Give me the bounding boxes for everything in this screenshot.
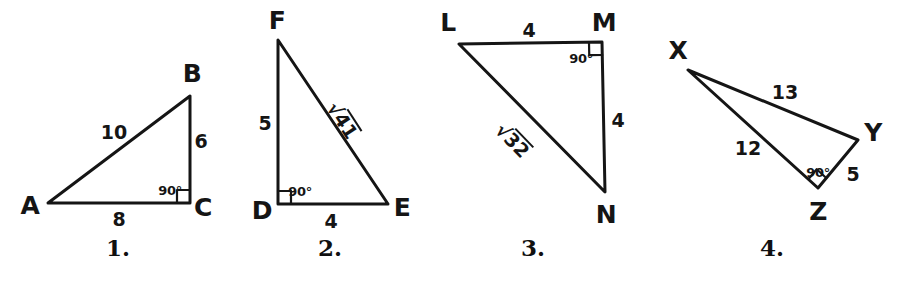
side-length-label-fd: 5 bbox=[258, 114, 271, 133]
vertex-label-m: M bbox=[592, 10, 616, 35]
worksheet-figures-panel: ABC106890°1.FDE54√4190°2.LMN44√3290°3.XY… bbox=[0, 0, 904, 281]
vertex-label-z: Z bbox=[809, 199, 827, 224]
angle-measure-label-z: 90° bbox=[806, 166, 830, 179]
side-length-label-xz: 12 bbox=[735, 139, 761, 158]
figure-caption-4: 4. bbox=[760, 236, 784, 259]
vertex-label-f: F bbox=[269, 8, 286, 33]
figure-caption-3: 3. bbox=[521, 236, 545, 259]
side-length-label-zy: 5 bbox=[846, 165, 859, 184]
side-length-label-lm: 4 bbox=[522, 21, 535, 40]
side-length-label-ln: √32 bbox=[492, 119, 534, 162]
vertex-label-x: X bbox=[669, 38, 688, 63]
vertex-label-d: D bbox=[252, 198, 272, 223]
vertex-label-b: B bbox=[183, 61, 202, 86]
figure-caption-2: 2. bbox=[318, 236, 342, 259]
side-length-label-ac: 8 bbox=[112, 210, 125, 229]
vertex-label-n: N bbox=[596, 202, 616, 227]
vertex-label-l: L bbox=[440, 10, 455, 35]
vertex-label-y: Y bbox=[864, 120, 882, 145]
side-length-label-de: 4 bbox=[324, 212, 337, 231]
side-length-label-ab: 10 bbox=[101, 123, 127, 142]
angle-measure-label-c: 90° bbox=[158, 184, 182, 197]
vertex-label-e: E bbox=[394, 195, 411, 220]
side-length-label-fe: √41 bbox=[324, 98, 363, 142]
side-length-label-bc: 6 bbox=[194, 132, 207, 151]
vertex-label-a: A bbox=[21, 193, 40, 218]
angle-measure-label-d: 90° bbox=[288, 185, 312, 198]
figure-caption-1: 1. bbox=[106, 236, 130, 259]
vertex-label-c: C bbox=[194, 195, 212, 220]
side-length-label-mn: 4 bbox=[611, 111, 624, 130]
side-length-label-xy: 13 bbox=[772, 83, 798, 102]
angle-measure-label-m: 90° bbox=[569, 52, 593, 65]
